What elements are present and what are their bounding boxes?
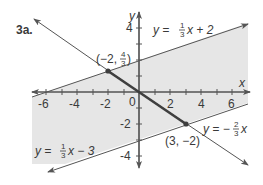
graph-svg: 3a. x y 0 -6 -4 -2 2 4 6 4 -2 -4 y = 1 3… <box>0 0 263 185</box>
y-tick-label: -2 <box>120 117 131 131</box>
svg-text:(−2,: (−2, <box>96 52 117 66</box>
x-axis-label: x <box>238 76 246 90</box>
svg-text:1: 1 <box>180 21 185 30</box>
svg-text:4: 4 <box>121 50 126 59</box>
x-tick-label: 6 <box>228 97 235 111</box>
svg-text:): ) <box>127 52 131 66</box>
svg-text:1: 1 <box>61 142 66 151</box>
x-tick-label: -6 <box>38 97 49 111</box>
svg-text:3: 3 <box>234 129 239 138</box>
svg-text:3: 3 <box>180 30 185 39</box>
svg-text:3: 3 <box>121 59 126 68</box>
svg-text:x − 3: x − 3 <box>67 144 95 158</box>
svg-text:y =: y = <box>34 144 51 158</box>
svg-text:y =: y = <box>152 23 169 37</box>
point-lower-label: (3, −2) <box>165 134 200 148</box>
svg-text:x + 2: x + 2 <box>186 23 214 37</box>
y-tick-label: -4 <box>120 149 131 163</box>
svg-text:2: 2 <box>234 120 239 129</box>
equation-lower-boundary: y = 1 3 x − 3 <box>34 142 95 160</box>
svg-text:y = −: y = − <box>202 122 230 136</box>
svg-text:3: 3 <box>61 151 66 160</box>
equation-upper-boundary: y = 1 3 x + 2 <box>152 21 214 39</box>
equation-diagonal: y = − 2 3 x <box>202 120 248 138</box>
point-upper-dot <box>105 68 110 73</box>
x-tick-label: -2 <box>100 97 111 111</box>
origin-label: 0 <box>129 95 136 109</box>
coordinate-graph: 3a. x y 0 -6 -4 -2 2 4 6 4 -2 -4 y = 1 3… <box>0 0 263 185</box>
x-tick-label: 2 <box>167 97 174 111</box>
svg-text:x: x <box>240 122 248 136</box>
x-tick-label: 4 <box>198 97 205 111</box>
x-tick-label: -4 <box>69 97 80 111</box>
y-tick-label: 4 <box>126 21 133 35</box>
point-lower-dot <box>183 121 188 126</box>
problem-label: 3a. <box>16 23 33 37</box>
